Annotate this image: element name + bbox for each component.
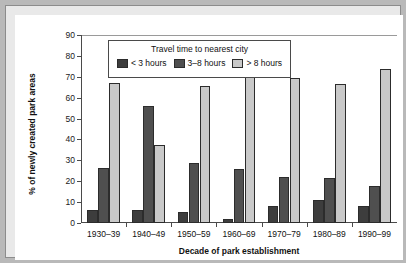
legend-swatch-icon — [232, 59, 243, 68]
x-tick-mark — [262, 223, 263, 227]
bar — [234, 169, 245, 223]
x-tick-label-1940-49: 1940–49 — [132, 229, 165, 239]
x-tick-label-1970-79: 1970–79 — [268, 229, 301, 239]
legend-swatch-icon — [174, 59, 185, 68]
bar — [358, 206, 369, 223]
x-tick-label-1990-99: 1990–99 — [358, 229, 391, 239]
chart-legend: Travel time to nearest city < 3 hours3–8… — [108, 40, 291, 78]
x-axis-title: Decade of park establishment — [81, 246, 397, 256]
bar — [290, 78, 301, 223]
legend-entry: < 3 hours — [117, 58, 167, 68]
bar — [143, 106, 154, 223]
figure-inner-frame: 0102030405060708090 % of newly created p… — [5, 5, 401, 258]
y-tick-label: 60 — [55, 93, 75, 102]
y-tick-label: 90 — [55, 31, 75, 40]
bar — [369, 186, 380, 223]
bar — [154, 145, 165, 223]
y-axis-title: % of newly created park areas — [27, 54, 37, 214]
bar — [200, 86, 211, 223]
chart-panel: 0102030405060708090 % of newly created p… — [15, 15, 403, 260]
x-tick-mark — [352, 223, 353, 227]
y-tick-label: 10 — [55, 198, 75, 207]
legend-swatch-icon — [117, 59, 128, 68]
y-tick-label: 0 — [55, 219, 75, 228]
y-tick-label: 70 — [55, 73, 75, 82]
y-tick-label: 40 — [55, 135, 75, 144]
bar — [245, 75, 256, 223]
legend-title: Travel time to nearest city — [109, 44, 290, 54]
bar — [87, 210, 98, 223]
legend-entry: 3–8 hours — [174, 58, 226, 68]
y-tick-label: 50 — [55, 114, 75, 123]
x-tick-label-1980-89: 1980–89 — [313, 229, 346, 239]
y-tick-mark — [77, 223, 81, 224]
x-tick-mark — [126, 223, 127, 227]
legend-entry: > 8 hours — [232, 58, 282, 68]
x-tick-mark — [307, 223, 308, 227]
bar — [313, 200, 324, 223]
bar — [335, 84, 346, 223]
bar — [279, 177, 290, 223]
y-tick-label: 30 — [55, 156, 75, 165]
y-tick-label: 20 — [55, 177, 75, 186]
bar — [178, 212, 189, 223]
figure-outer-frame: 0102030405060708090 % of newly created p… — [0, 0, 406, 263]
bar — [380, 69, 391, 223]
x-tick-mark — [171, 223, 172, 227]
y-tick-label: 80 — [55, 52, 75, 61]
legend-label: < 3 hours — [131, 58, 167, 68]
x-tick-label-1960-69: 1960–69 — [222, 229, 255, 239]
bar — [109, 83, 120, 223]
x-tick-label-1930-39: 1930–39 — [87, 229, 120, 239]
bar — [189, 163, 200, 223]
bar — [268, 206, 279, 223]
legend-label: > 8 hours — [246, 58, 282, 68]
x-tick-label-1950-59: 1950–59 — [177, 229, 210, 239]
legend-entries: < 3 hours3–8 hours> 8 hours — [109, 58, 290, 68]
bar — [98, 168, 109, 223]
bar — [324, 178, 335, 223]
x-tick-mark — [216, 223, 217, 227]
bar — [132, 210, 143, 223]
legend-label: 3–8 hours — [188, 58, 226, 68]
bar — [223, 219, 234, 223]
